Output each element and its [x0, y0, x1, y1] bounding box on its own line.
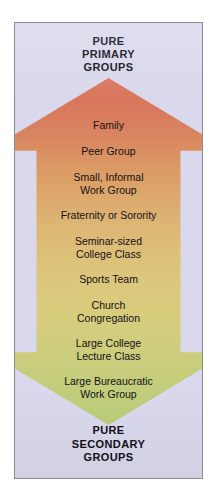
group-type-item: Seminar-sized College Class [21, 235, 196, 260]
group-type-item: Fraternity or Sorority [21, 209, 196, 222]
pure-secondary-groups-heading: PURE SECONDARY GROUPS [15, 424, 202, 464]
pure-primary-groups-heading: PURE PRIMARY GROUPS [15, 35, 202, 75]
group-type-item: Large Bureaucratic Work Group [21, 375, 196, 400]
group-type-item: Family [21, 119, 196, 132]
group-type-item: Peer Group [21, 145, 196, 158]
primary-secondary-groups-diagram: PURE PRIMARY GROUPS FamilyPeer GroupSmal… [0, 0, 217, 492]
diagram-panel: PURE PRIMARY GROUPS FamilyPeer GroupSmal… [14, 22, 203, 479]
group-type-item: Small, Informal Work Group [21, 171, 196, 196]
group-type-list: FamilyPeer GroupSmall, Informal Work Gro… [15, 78, 202, 425]
group-type-item: Large College Lecture Class [21, 337, 196, 362]
group-type-item: Sports Team [21, 273, 196, 286]
group-type-item: Church Congregation [21, 299, 196, 324]
